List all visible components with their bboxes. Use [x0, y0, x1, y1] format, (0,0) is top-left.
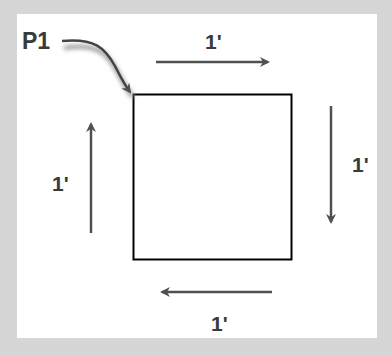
arrow-left-icon — [162, 292, 274, 297]
edge-length-bottom: 1' — [211, 313, 228, 334]
edge-length-top: 1' — [205, 31, 222, 52]
p1-pointer-arrow — [62, 40, 133, 97]
arrow-down-icon — [331, 106, 337, 222]
start-point-label: P1 — [22, 30, 50, 53]
edge-length-right: 1' — [352, 154, 369, 175]
square-shape — [134, 95, 292, 260]
arrow-right-icon — [156, 62, 268, 67]
edge-length-left: 1' — [52, 173, 69, 194]
arrow-up-icon — [91, 124, 97, 234]
